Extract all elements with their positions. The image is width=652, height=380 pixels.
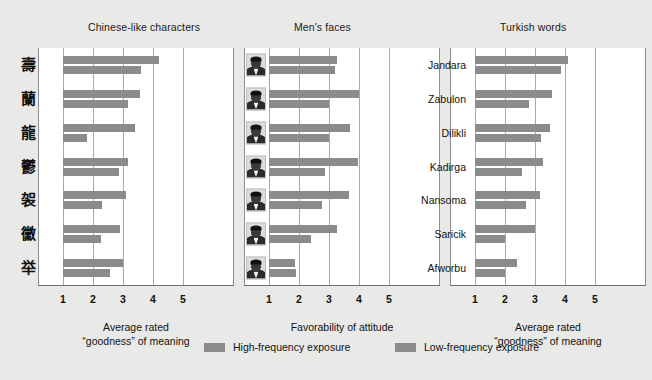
gridline-2 <box>93 48 94 285</box>
gridline-2 <box>505 48 506 285</box>
bar-high-frequency <box>269 259 295 267</box>
x-tick-label-2: 2 <box>90 293 96 305</box>
x-tick-label-1: 1 <box>472 293 478 305</box>
bar-high-frequency <box>269 124 350 132</box>
bar-low-frequency <box>269 66 335 74</box>
word-label: Saricik <box>390 228 466 240</box>
word-label: Kadirga <box>390 161 466 173</box>
character-glyph: 蘭 <box>21 91 36 106</box>
bar-high-frequency <box>269 56 337 64</box>
face-photo <box>246 223 266 246</box>
bar-low-frequency <box>63 100 128 108</box>
word-label: Nansoma <box>390 194 466 206</box>
bar-high-frequency <box>63 90 140 98</box>
gridline-3 <box>329 48 330 285</box>
bar-high-frequency <box>475 191 540 199</box>
bar-high-frequency <box>269 90 359 98</box>
panel-title-mens-faces: Men's faces <box>294 21 351 33</box>
bar-low-frequency <box>475 66 561 74</box>
bar-high-frequency <box>269 225 337 233</box>
character-glyph: 龍 <box>21 125 36 140</box>
face-hair <box>251 260 262 265</box>
x-tick-label-4: 4 <box>150 293 156 305</box>
bar-high-frequency <box>475 158 543 166</box>
gridline-4 <box>153 48 154 285</box>
x-tick-label-5: 5 <box>592 293 598 305</box>
x-tick-label-5: 5 <box>180 293 186 305</box>
face-photo <box>246 155 266 178</box>
gridline-1 <box>63 48 64 285</box>
panel-title-turkish-words: Turkish words <box>500 21 566 33</box>
axis-caption-panel-1: Average rated “goodness” of meaning <box>82 320 189 348</box>
gridline-3 <box>123 48 124 285</box>
x-tick-label-4: 4 <box>562 293 568 305</box>
character-glyph: 鬱 <box>21 159 36 174</box>
bar-high-frequency <box>475 90 552 98</box>
x-tick-label-3: 3 <box>532 293 538 305</box>
character-glyph: 举 <box>21 261 36 276</box>
axis-caption-line-2: “goodness” of meaning <box>82 334 189 348</box>
character-glyph: 袈 <box>21 193 36 208</box>
word-label: Jandara <box>390 59 466 71</box>
bar-low-frequency <box>269 168 325 176</box>
chart-figure: Chinese-like characters Men's faces Turk… <box>0 0 652 380</box>
bar-low-frequency <box>269 134 329 142</box>
legend-swatch-low-frequency <box>395 343 416 352</box>
gridline-3 <box>535 48 536 285</box>
bar-low-frequency <box>475 269 505 277</box>
bar-high-frequency <box>475 124 550 132</box>
character-glyph: 黴 <box>21 227 36 242</box>
axis-caption-line-1: Average rated <box>494 320 601 334</box>
bar-high-frequency <box>63 158 128 166</box>
bar-low-frequency <box>63 66 141 74</box>
face-photo <box>246 257 266 280</box>
bar-high-frequency <box>63 259 123 267</box>
face-photo <box>246 53 266 76</box>
face-hair <box>251 124 262 129</box>
word-label: Zabulon <box>390 93 466 105</box>
gridline-5 <box>595 48 596 285</box>
bar-low-frequency <box>63 134 87 142</box>
bar-low-frequency <box>269 100 329 108</box>
legend-item-low-frequency: Low-frequency exposure <box>395 341 539 353</box>
character-glyph: 壽 <box>21 57 36 72</box>
bar-low-frequency <box>475 235 505 243</box>
face-photo <box>246 87 266 110</box>
bar-low-frequency <box>63 201 102 209</box>
gridline-4 <box>565 48 566 285</box>
bar-high-frequency <box>475 56 568 64</box>
gridline-4 <box>359 48 360 285</box>
word-label: Dilikli <box>390 127 466 139</box>
bar-low-frequency <box>475 100 529 108</box>
face-hair <box>251 158 262 163</box>
x-tick-label-3: 3 <box>120 293 126 305</box>
gridline-1 <box>475 48 476 285</box>
plot-area-chinese-characters <box>38 48 234 285</box>
axis-caption-panel-2: Favorability of attitude <box>291 320 394 334</box>
plot-area-turkish-words <box>450 48 646 285</box>
bar-high-frequency <box>63 225 120 233</box>
axis-caption-line-1: Favorability of attitude <box>291 320 394 334</box>
face-hair <box>251 90 262 95</box>
bar-high-frequency <box>63 56 159 64</box>
gridline-1 <box>269 48 270 285</box>
x-tick-label-2: 2 <box>296 293 302 305</box>
bar-high-frequency <box>475 225 535 233</box>
word-label: Afworbu <box>390 262 466 274</box>
panel-title-chinese-characters: Chinese-like characters <box>88 21 200 33</box>
x-axis-line <box>244 285 440 286</box>
bar-low-frequency <box>475 168 522 176</box>
bar-high-frequency <box>269 191 349 199</box>
legend-swatch-high-frequency <box>204 343 225 352</box>
bar-low-frequency <box>475 134 541 142</box>
bar-low-frequency <box>63 168 119 176</box>
bar-low-frequency <box>269 235 311 243</box>
bar-low-frequency <box>269 201 322 209</box>
figure-inner: Chinese-like characters Men's faces Turk… <box>8 8 644 372</box>
x-tick-label-5: 5 <box>386 293 392 305</box>
face-hair <box>251 56 262 61</box>
face-photo <box>246 121 266 144</box>
x-tick-label-2: 2 <box>502 293 508 305</box>
face-hair <box>251 226 262 231</box>
x-tick-label-1: 1 <box>60 293 66 305</box>
